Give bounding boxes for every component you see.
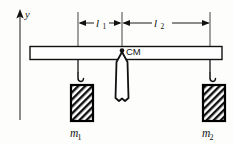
dimension-l2-arrowhead-left: [123, 20, 131, 26]
vertical-axis: y: [16, 9, 30, 120]
dimension-l1: l 1: [79, 17, 122, 32]
mass-subscript-m1: 1: [78, 133, 82, 142]
mass-assembly-m1: m 1: [70, 73, 93, 142]
mass-assembly-m2: m 2: [202, 73, 225, 142]
mass-block-m2: [203, 85, 225, 121]
hook-right: [210, 73, 216, 81]
dimension-l2-arrowhead-right: [202, 20, 210, 26]
dimension-l1-arrowhead-right: [114, 20, 122, 26]
stirrup-body: [116, 52, 129, 101]
physics-diagram-figure: y l 1 l 2: [0, 0, 234, 144]
dimension-l1-label: l: [96, 17, 99, 29]
dimension-l2-subscript: 2: [161, 22, 165, 31]
diagram-canvas: y l 1 l 2: [0, 0, 234, 144]
center-of-mass-label: CM: [126, 46, 141, 57]
stirrup-hanger: [116, 52, 129, 101]
mass-subscript-m2: 2: [210, 133, 214, 142]
mass-block-m1: [71, 85, 93, 121]
suspension-wires: [78, 59, 210, 73]
dimension-l1-subscript: 1: [103, 22, 107, 31]
hook-left: [78, 73, 84, 81]
vertical-axis-label: y: [24, 9, 30, 20]
dimension-l2: l 2: [123, 17, 210, 32]
dimension-l2-label: l: [154, 17, 157, 29]
dimension-l1-arrowhead-left: [79, 20, 87, 26]
